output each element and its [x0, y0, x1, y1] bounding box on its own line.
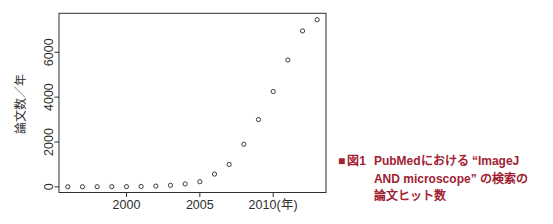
data-point	[256, 117, 260, 121]
data-point	[154, 184, 158, 188]
caption-text: PubMedにおける “ImageJ AND microscope” の検索の …	[374, 153, 528, 206]
data-point	[124, 185, 128, 189]
data-point	[80, 185, 84, 189]
scatter-chart: 200020052010(年)0200040006000論文数／年	[0, 0, 340, 224]
x-tick-label: 2005	[186, 198, 214, 212]
plot-border	[59, 13, 326, 192]
data-point	[212, 172, 216, 176]
x-tick-label: 2000	[113, 198, 141, 212]
y-tick-label: 4000	[42, 83, 56, 111]
figure-caption: ■ 図1 PubMedにおける “ImageJ AND microscope” …	[338, 153, 528, 206]
data-point	[315, 18, 319, 22]
data-point	[300, 29, 304, 33]
data-point	[286, 58, 290, 62]
figure-label: ■ 図1	[338, 153, 366, 171]
y-axis-title: 論文数／年	[13, 74, 28, 134]
x-tick-label: 2010(年)	[249, 198, 298, 212]
data-point	[183, 182, 187, 186]
y-tick-label: 6000	[42, 38, 56, 66]
figure-marker-icon: ■	[338, 153, 345, 171]
data-point	[139, 184, 143, 188]
data-point	[66, 185, 70, 189]
data-point	[227, 162, 231, 166]
caption-line-2: AND microscope” の検索の	[374, 171, 528, 189]
caption-line-1: PubMedにおける “ImageJ	[374, 153, 528, 171]
data-point	[110, 185, 114, 189]
caption-line-3: 論文ヒット数	[374, 188, 528, 206]
y-tick-label: 2000	[42, 128, 56, 156]
data-point	[95, 185, 99, 189]
y-tick-label: 0	[42, 183, 56, 190]
figure-panel: 200020052010(年)0200040006000論文数／年 ■ 図1 P…	[0, 0, 553, 224]
figure-number: 図1	[347, 153, 366, 171]
data-point	[271, 89, 275, 93]
data-point	[242, 142, 246, 146]
data-point	[198, 180, 202, 184]
data-point	[168, 183, 172, 187]
